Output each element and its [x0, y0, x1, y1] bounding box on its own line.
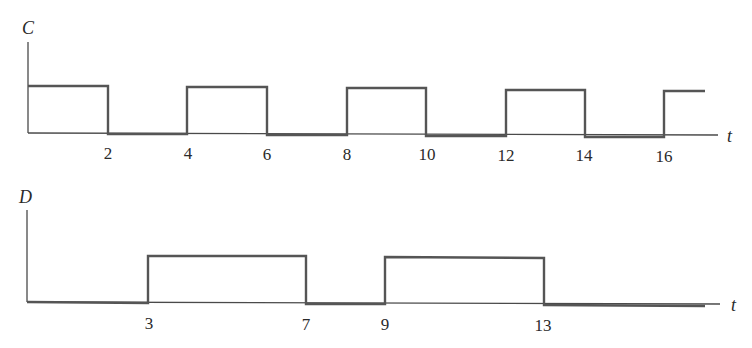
tick-label: 9 [381, 315, 390, 334]
tick-label: 7 [302, 315, 311, 334]
signal-d-waveform [27, 256, 705, 306]
tick-label: 12 [498, 146, 515, 165]
tick-label: 6 [263, 145, 272, 164]
tick-label: 16 [656, 147, 673, 166]
timing-diagram: C t 2 4 6 8 10 12 14 16 D t 3 7 9 13 [0, 0, 752, 348]
signal-d-tick-labels: 3 7 9 13 [145, 314, 552, 335]
tick-label: 8 [343, 145, 352, 164]
signal-d-label: D [18, 187, 32, 207]
tick-label: 14 [576, 146, 594, 165]
signal-c-t-label: t [727, 126, 733, 146]
tick-label: 4 [184, 144, 193, 163]
signal-c-waveform [28, 86, 705, 137]
signal-c-tick-labels: 2 4 6 8 10 12 14 16 [104, 144, 673, 166]
tick-label: 13 [535, 316, 552, 335]
signal-d-t-label: t [731, 295, 737, 315]
tick-label: 10 [419, 145, 436, 164]
signal-c-plot: C t 2 4 6 8 10 12 14 16 [22, 18, 733, 166]
signal-c-label: C [22, 18, 35, 38]
signal-d-plot: D t 3 7 9 13 [18, 187, 737, 335]
tick-label: 3 [145, 314, 154, 333]
tick-label: 2 [104, 144, 113, 163]
